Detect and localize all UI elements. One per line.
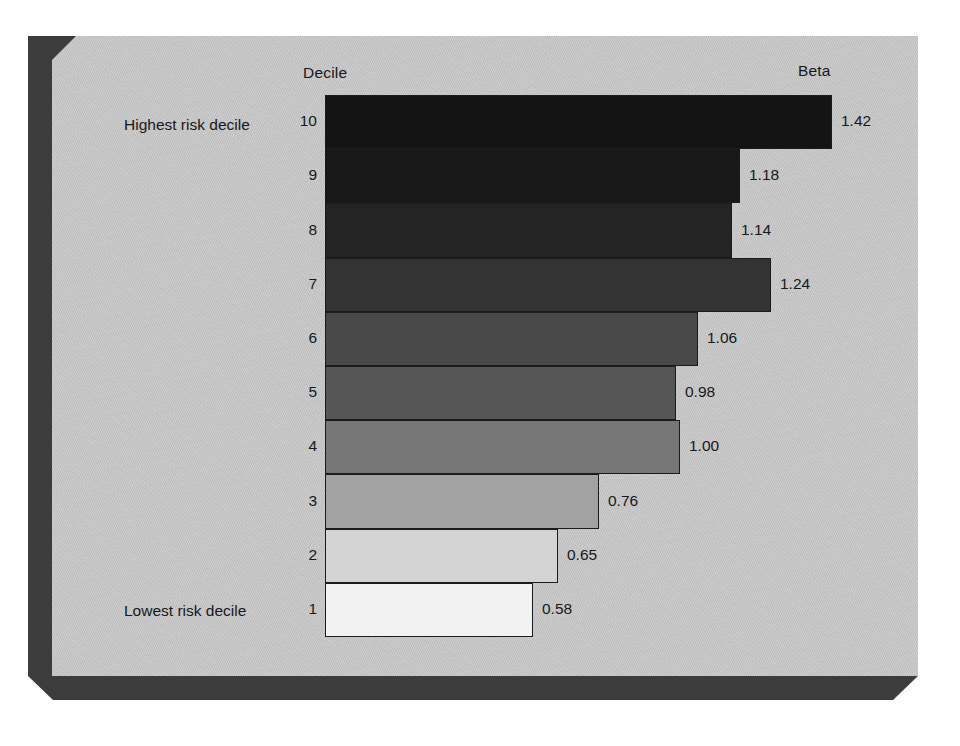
decile-label-6: 6 xyxy=(281,329,317,347)
annotation-lowest-risk-decile: Lowest risk decile xyxy=(124,602,246,620)
value-label-decile-2: 0.65 xyxy=(567,546,597,564)
bar-decile-4 xyxy=(325,420,680,474)
bar-decile-6 xyxy=(325,312,698,366)
annotation-highest-risk-decile: Highest risk decile xyxy=(124,116,250,134)
value-label-decile-3: 0.76 xyxy=(608,492,638,510)
decile-label-5: 5 xyxy=(281,383,317,401)
bar-decile-10 xyxy=(325,95,832,149)
plot-area: Decile Beta Highest risk decile Lowest r… xyxy=(0,0,960,746)
bar-decile-1 xyxy=(325,583,533,637)
value-label-decile-8: 1.14 xyxy=(741,221,771,239)
column-header-beta: Beta xyxy=(798,62,831,80)
value-label-decile-6: 1.06 xyxy=(707,329,737,347)
bar-decile-3 xyxy=(325,474,599,528)
decile-label-10: 10 xyxy=(281,112,317,130)
bar-decile-8 xyxy=(325,203,732,257)
value-label-decile-1: 0.58 xyxy=(542,600,572,618)
decile-label-9: 9 xyxy=(281,166,317,184)
decile-label-1: 1 xyxy=(281,600,317,618)
column-header-decile: Decile xyxy=(303,64,347,82)
decile-label-3: 3 xyxy=(281,492,317,510)
value-label-decile-10: 1.42 xyxy=(841,112,871,130)
decile-label-2: 2 xyxy=(281,546,317,564)
bar-decile-7 xyxy=(325,258,771,312)
value-label-decile-9: 1.18 xyxy=(749,166,779,184)
decile-label-8: 8 xyxy=(281,221,317,239)
value-label-decile-4: 1.00 xyxy=(689,437,719,455)
value-label-decile-5: 0.98 xyxy=(685,383,715,401)
value-label-decile-7: 1.24 xyxy=(780,275,810,293)
chart-figure: Decile Beta Highest risk decile Lowest r… xyxy=(0,0,960,746)
bar-decile-2 xyxy=(325,529,558,583)
decile-label-4: 4 xyxy=(281,437,317,455)
decile-label-7: 7 xyxy=(281,275,317,293)
bar-decile-5 xyxy=(325,366,676,420)
bar-decile-9 xyxy=(325,149,740,203)
